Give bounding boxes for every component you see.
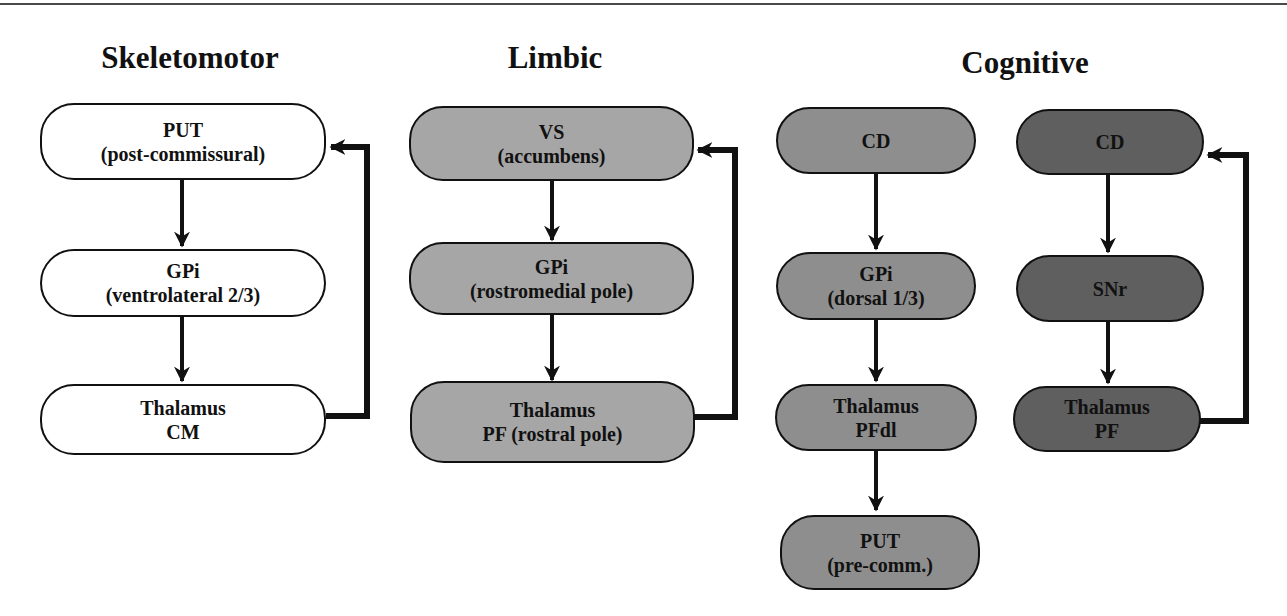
node-label: Thalamus: [140, 396, 226, 420]
node-label: PUT: [163, 118, 203, 142]
node-cd-1: CD: [776, 107, 976, 174]
node-put-pre-comm: PUT (pre-comm.): [780, 515, 980, 590]
node-label: GPi: [166, 259, 199, 283]
node-sublabel: PF: [1095, 419, 1119, 443]
node-gpi-dorsal: GPi (dorsal 1/3): [776, 252, 976, 320]
node-thalamus-cm: Thalamus CM: [40, 384, 326, 455]
node-sublabel: (accumbens): [498, 144, 606, 168]
node-label: SNr: [1093, 277, 1127, 301]
node-sublabel: (ventrolateral 2/3): [106, 283, 261, 307]
node-sublabel: CM: [166, 420, 199, 444]
node-sublabel: (post-commissural): [101, 142, 265, 166]
node-cd-2: CD: [1016, 109, 1204, 175]
node-label: Thalamus: [833, 394, 919, 418]
node-sublabel: (dorsal 1/3): [827, 286, 924, 310]
node-label: VS: [539, 120, 565, 144]
node-thalamus-pf: Thalamus PF: [1013, 386, 1201, 452]
node-label: Thalamus: [510, 398, 596, 422]
node-label: GPi: [535, 255, 568, 279]
node-put-post-commissural: PUT (post-commissural): [40, 103, 326, 180]
node-label: GPi: [859, 262, 892, 286]
node-snr: SNr: [1016, 255, 1204, 322]
node-label: Thalamus: [1064, 395, 1150, 419]
node-vs-accumbens: VS (accumbens): [409, 106, 694, 181]
node-gpi-rostromedial: GPi (rostromedial pole): [409, 242, 694, 315]
node-sublabel: (rostromedial pole): [470, 279, 633, 303]
node-sublabel: PF (rostral pole): [483, 422, 623, 446]
node-label: CD: [1096, 130, 1125, 154]
node-gpi-ventrolateral: GPi (ventrolateral 2/3): [40, 249, 326, 317]
node-thalamus-pfdl: Thalamus PFdl: [775, 384, 977, 451]
node-label: CD: [862, 129, 891, 153]
node-sublabel: PFdl: [855, 418, 896, 442]
node-label: PUT: [860, 529, 900, 553]
node-sublabel: (pre-comm.): [827, 553, 933, 577]
node-thalamus-pf-rostral: Thalamus PF (rostral pole): [410, 381, 695, 463]
